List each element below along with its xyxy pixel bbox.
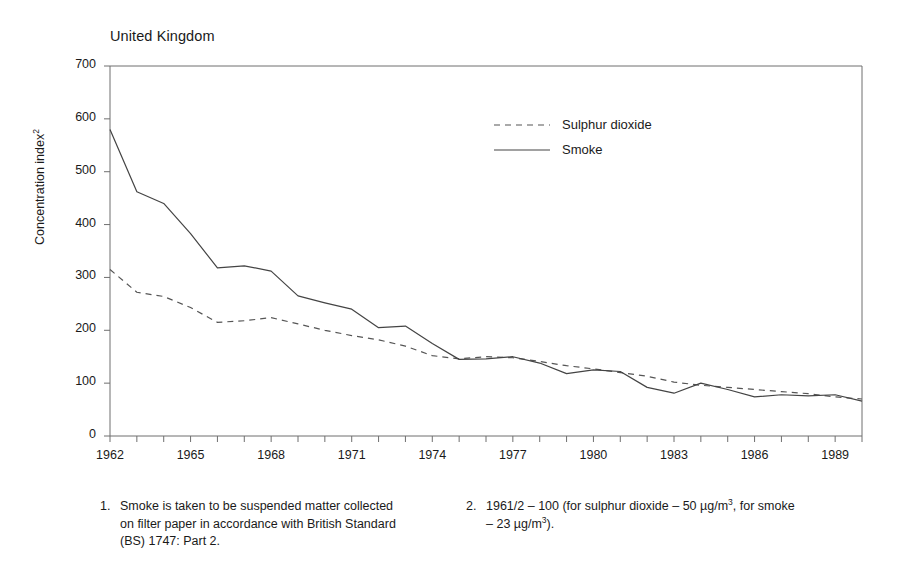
footnote-2-text: 1961/2 – 100 (for sulphur dioxide – 50 µ… [486, 498, 796, 533]
y-tick-label: 0 [52, 427, 96, 441]
footnote-2-text-before: 1961/2 – 100 (for sulphur dioxide – 50 µ… [486, 499, 728, 513]
legend-item-sulphur-dioxide: Sulphur dioxide [494, 112, 652, 137]
x-tick-label: 1980 [563, 448, 623, 462]
x-tick-label: 1968 [241, 448, 301, 462]
x-tick-label: 1971 [322, 448, 382, 462]
y-tick-label: 100 [52, 374, 96, 388]
x-tick-label: 1983 [644, 448, 704, 462]
footnote-2-text-after: ). [547, 517, 555, 531]
footnote-1-number: 1. [100, 498, 120, 551]
plot-border [110, 66, 862, 436]
x-tick-label: 1974 [402, 448, 462, 462]
legend-line-dashed-icon [494, 120, 550, 130]
y-tick-label: 200 [52, 321, 96, 335]
y-tick-label: 300 [52, 268, 96, 282]
series-line-sulphur-dioxide [110, 270, 862, 400]
y-tick-label: 400 [52, 216, 96, 230]
footnote-2: 2. 1961/2 – 100 (for sulphur dioxide – 5… [466, 498, 796, 551]
y-tick-label: 700 [52, 57, 96, 71]
chart-figure: United Kingdom Concentration index2 0100… [0, 0, 912, 588]
legend-line-solid-icon [494, 145, 550, 155]
series-line-smoke [110, 129, 862, 401]
footnotes: 1. Smoke is taken to be suspended matter… [100, 498, 890, 551]
y-tick-label: 500 [52, 163, 96, 177]
chart-legend: Sulphur dioxide Smoke [494, 112, 652, 162]
y-tick-label: 600 [52, 110, 96, 124]
x-tick-label: 1962 [80, 448, 140, 462]
x-tick-label: 1986 [725, 448, 785, 462]
x-tick-label: 1965 [161, 448, 221, 462]
x-tick-label: 1977 [483, 448, 543, 462]
legend-item-smoke: Smoke [494, 137, 652, 162]
footnote-2-number: 2. [466, 498, 486, 533]
x-tick-label: 1989 [805, 448, 865, 462]
legend-label-sulphur-dioxide: Sulphur dioxide [562, 117, 652, 132]
footnote-1: 1. Smoke is taken to be suspended matter… [100, 498, 400, 551]
legend-label-smoke: Smoke [562, 142, 602, 157]
footnote-1-text: Smoke is taken to be suspended matter co… [120, 498, 400, 551]
